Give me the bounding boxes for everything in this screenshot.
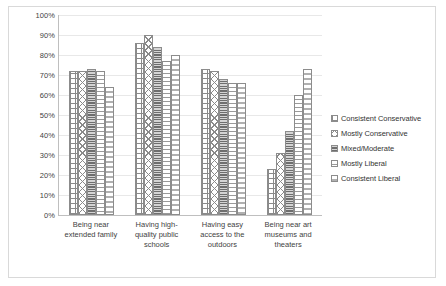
legend-item-label: Consistent Liberal bbox=[341, 174, 400, 183]
legend-swatch-icon bbox=[331, 130, 338, 137]
legend-item[interactable]: Mostly Liberal bbox=[331, 156, 435, 171]
x-axis: Being near extended familyHaving high-qu… bbox=[58, 220, 321, 250]
bar[interactable] bbox=[219, 79, 228, 215]
y-axis-tick-label: 40% bbox=[13, 131, 55, 140]
bar[interactable] bbox=[228, 83, 237, 215]
legend-item-label: Mostly Liberal bbox=[341, 159, 387, 168]
gridline bbox=[59, 215, 322, 216]
y-axis-tick-label: 30% bbox=[13, 151, 55, 160]
bar[interactable] bbox=[96, 71, 105, 215]
y-axis-tick-label: 10% bbox=[13, 191, 55, 200]
plot-area bbox=[58, 15, 322, 216]
bar-group bbox=[256, 15, 322, 215]
legend-swatch-icon bbox=[331, 175, 338, 182]
plot-wrapper: 0%10%20%30%40%50%60%70%80%90%100% Being … bbox=[9, 7, 339, 279]
y-axis-tick-label: 70% bbox=[13, 71, 55, 80]
legend-swatch-icon bbox=[331, 115, 338, 122]
bar[interactable] bbox=[267, 169, 276, 215]
x-axis-tick-label: Having easy access to the outdoors bbox=[190, 220, 256, 250]
y-axis-tick-label: 100% bbox=[13, 11, 55, 20]
bar-group bbox=[125, 15, 191, 215]
legend-item[interactable]: Consistent Conservative bbox=[331, 111, 435, 126]
bar[interactable] bbox=[210, 71, 219, 215]
legend-item[interactable]: Consistent Liberal bbox=[331, 171, 435, 186]
y-axis-tick-label: 0% bbox=[13, 211, 55, 220]
bar[interactable] bbox=[78, 71, 87, 215]
bar[interactable] bbox=[285, 131, 294, 215]
bar-group bbox=[191, 15, 257, 215]
y-axis-tick-label: 90% bbox=[13, 31, 55, 40]
y-axis: 0%10%20%30%40%50%60%70%80%90%100% bbox=[13, 15, 55, 215]
legend-item-label: Consistent Conservative bbox=[341, 114, 421, 123]
bar[interactable] bbox=[87, 69, 96, 215]
bar[interactable] bbox=[69, 71, 78, 215]
bar[interactable] bbox=[237, 83, 246, 215]
bar[interactable] bbox=[276, 153, 285, 215]
x-axis-tick-label: Being near extended family bbox=[58, 220, 124, 250]
chart-container: 0%10%20%30%40%50%60%70%80%90%100% Being … bbox=[8, 6, 436, 278]
x-axis-tick-label: Having high-quality public schools bbox=[124, 220, 190, 250]
y-axis-tick-label: 50% bbox=[13, 111, 55, 120]
y-axis-tick-label: 60% bbox=[13, 91, 55, 100]
bar[interactable] bbox=[105, 87, 114, 215]
legend-swatch-icon bbox=[331, 160, 338, 167]
x-axis-tick-label: Being near art museums and theaters bbox=[255, 220, 321, 250]
bar[interactable] bbox=[294, 95, 303, 215]
bar[interactable] bbox=[171, 55, 180, 215]
y-axis-tick-label: 80% bbox=[13, 51, 55, 60]
legend-item[interactable]: Mixed/Moderate bbox=[331, 141, 435, 156]
bar[interactable] bbox=[303, 69, 312, 215]
legend-swatch-icon bbox=[331, 145, 338, 152]
bar[interactable] bbox=[144, 35, 153, 215]
bar-group bbox=[59, 15, 125, 215]
legend-item[interactable]: Mostly Conservative bbox=[331, 126, 435, 141]
bars-layer bbox=[59, 15, 322, 215]
y-axis-tick-label: 20% bbox=[13, 171, 55, 180]
bar[interactable] bbox=[201, 69, 210, 215]
bar[interactable] bbox=[135, 43, 144, 215]
legend-item-label: Mixed/Moderate bbox=[341, 144, 394, 153]
legend-item-label: Mostly Conservative bbox=[341, 129, 408, 138]
bar[interactable] bbox=[162, 61, 171, 215]
chart-legend: Consistent ConservativeMostly Conservati… bbox=[331, 111, 435, 186]
bar[interactable] bbox=[153, 47, 162, 215]
